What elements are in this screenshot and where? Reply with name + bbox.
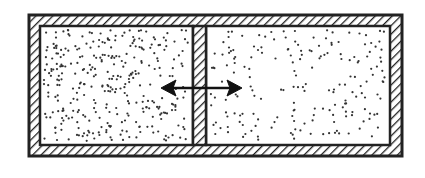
partition	[193, 26, 206, 145]
container-diagram	[0, 0, 425, 178]
